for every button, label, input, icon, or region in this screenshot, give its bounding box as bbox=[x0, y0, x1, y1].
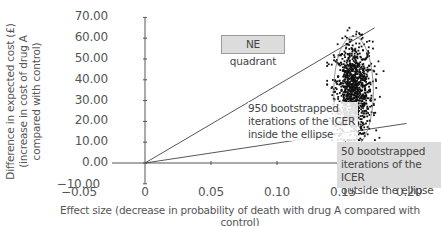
x-tick-label: 0.10 bbox=[252, 185, 302, 199]
x-axis-label: Effect size (decrease in probability of … bbox=[40, 204, 440, 226]
y-tick-label: 0.00 bbox=[48, 155, 108, 169]
outside-line-2: iterations of the ICER bbox=[341, 158, 437, 184]
outside-line-1: 50 bootstrapped bbox=[341, 145, 437, 158]
y-tick-label: 40.00 bbox=[48, 72, 108, 86]
inside-line-3: inside the ellipse bbox=[248, 128, 358, 141]
y-tick-label: 70.00 bbox=[48, 9, 108, 23]
inside-line-2: iterations of the ICER bbox=[248, 115, 358, 128]
outside-ellipse-annotation: 50 bootstrapped iterations of the ICER o… bbox=[337, 142, 441, 188]
y-tick-label: 50.00 bbox=[48, 51, 108, 65]
x-tick-label: 0 bbox=[120, 185, 170, 199]
y-tick-label: 10.00 bbox=[48, 134, 108, 148]
y-axis-label: Difference in expected cost (£) (increas… bbox=[4, 17, 43, 187]
y-tick-label: 20.00 bbox=[48, 113, 108, 127]
x-tick-label: −0.05 bbox=[54, 185, 104, 199]
inside-ellipse-annotation: 950 bootstrapped iterations of the ICER … bbox=[248, 102, 358, 141]
inside-line-1: 950 bootstrapped bbox=[248, 102, 358, 115]
x-tick-label: 0.05 bbox=[186, 185, 236, 199]
y-tick-label: 60.00 bbox=[48, 30, 108, 44]
y-tick-label: 30.00 bbox=[48, 93, 108, 107]
ne-quadrant-label: NE quadrant bbox=[221, 35, 285, 54]
outside-line-3: outside the ellipse bbox=[341, 184, 437, 197]
ce-plane-chart: 70.0060.0050.0040.0030.0020.0010.000.00−… bbox=[0, 0, 443, 226]
